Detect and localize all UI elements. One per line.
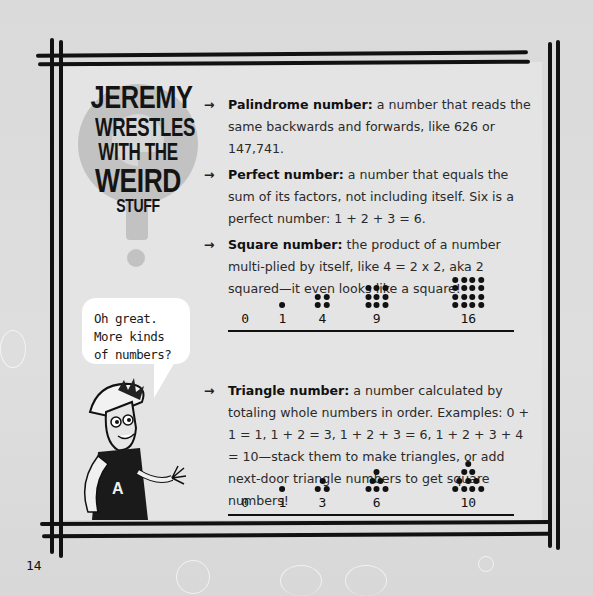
- character-illustration: A: [68, 372, 188, 520]
- dot: [374, 285, 380, 291]
- triangle-number-item: 1: [278, 486, 286, 510]
- title-line: STUFF: [93, 197, 183, 215]
- dot: [461, 285, 467, 291]
- figure-baseline: [228, 514, 514, 516]
- dot: [469, 469, 475, 475]
- figure-baseline: [228, 330, 514, 332]
- triangle-number-item: 10: [452, 461, 484, 511]
- dot: [365, 285, 371, 291]
- dot: [382, 486, 388, 492]
- doodle-circle: [176, 560, 210, 594]
- dot: [452, 294, 458, 300]
- dot: [469, 302, 475, 308]
- dot: [382, 285, 388, 291]
- dot: [469, 486, 475, 492]
- definition-term: Triangle number:: [228, 383, 349, 398]
- title-line: JEREMY: [90, 82, 185, 113]
- figure-label: 3: [315, 495, 330, 510]
- dot: [365, 486, 371, 492]
- dot: [315, 294, 321, 300]
- dot: [374, 302, 380, 308]
- dot: [315, 302, 321, 308]
- dot-group: [365, 469, 388, 492]
- dot: [469, 277, 475, 283]
- speech-line: Oh great.: [94, 310, 190, 328]
- triangle-numbers-figure: 013610: [228, 466, 514, 516]
- dot: [478, 285, 484, 291]
- dot-group: [315, 294, 330, 309]
- square-number-item: 0: [241, 308, 249, 326]
- dot: [461, 302, 467, 308]
- figure-label: 1: [278, 495, 286, 510]
- speech-line: of numbers?: [94, 346, 190, 364]
- dot: [478, 294, 484, 300]
- dot-group: [452, 277, 484, 309]
- shirt-letter: A: [112, 480, 124, 497]
- dot: [319, 478, 325, 484]
- figure-label: 0: [241, 311, 249, 326]
- dot: [461, 294, 467, 300]
- frame-right-outer: [548, 42, 552, 548]
- dot: [279, 486, 285, 492]
- sidebar-title: JEREMY WRESTLES WITH THE WEIRD STUFF: [80, 82, 196, 215]
- dot: [461, 486, 467, 492]
- definition-perfect: → Perfect number: a number that equals t…: [204, 164, 534, 230]
- dot: [324, 302, 330, 308]
- definition-palindrome: → Palindrome number: a number that reads…: [204, 94, 534, 160]
- frame-right-inner: [556, 40, 560, 550]
- dot-group: [452, 461, 484, 493]
- dot: [465, 478, 471, 484]
- dot-group: [279, 486, 285, 492]
- dot: [365, 302, 371, 308]
- dot: [452, 277, 458, 283]
- title-line: WRESTLES: [95, 115, 181, 140]
- square-number-item: 16: [452, 277, 484, 327]
- dot: [315, 486, 321, 492]
- frame-left-outer: [50, 38, 54, 554]
- dot: [478, 302, 484, 308]
- doodle-swirl: [0, 330, 26, 368]
- figure-label: 16: [452, 311, 484, 326]
- dot-group: [315, 478, 330, 493]
- dot: [452, 302, 458, 308]
- triangle-number-item: 0: [241, 492, 249, 510]
- dot: [324, 486, 330, 492]
- definition-term: Square number:: [228, 237, 343, 252]
- dot: [279, 302, 285, 308]
- triangle-number-item: 3: [315, 478, 330, 511]
- figure-label: 0: [241, 495, 249, 510]
- dot: [324, 294, 330, 300]
- dot: [474, 478, 480, 484]
- figure-label: 9: [365, 311, 388, 326]
- dot: [478, 277, 484, 283]
- dot: [374, 294, 380, 300]
- square-numbers-figure: 014916: [228, 282, 514, 332]
- arrow-icon: →: [204, 164, 215, 186]
- arrow-icon: →: [204, 94, 215, 116]
- dot: [452, 285, 458, 291]
- speech-line: More kinds: [94, 328, 190, 346]
- square-number-item: 4: [315, 294, 330, 327]
- dot: [382, 294, 388, 300]
- dot-group: [365, 285, 388, 308]
- figure-label: 6: [365, 495, 388, 510]
- frame-left-inner: [59, 40, 63, 558]
- dot: [461, 469, 467, 475]
- definition-term: Perfect number:: [228, 167, 344, 182]
- square-number-item: 9: [365, 285, 388, 326]
- title-line: WITH THE: [95, 141, 181, 164]
- dot: [469, 285, 475, 291]
- dot: [365, 294, 371, 300]
- speech-bubble: Oh great. More kinds of numbers?: [82, 298, 190, 364]
- dot: [374, 469, 380, 475]
- dot: [382, 302, 388, 308]
- dot: [378, 478, 384, 484]
- dot: [374, 486, 380, 492]
- arrow-icon: →: [204, 380, 215, 402]
- square-number-item: 1: [278, 302, 286, 326]
- definition-term: Palindrome number:: [228, 97, 373, 112]
- dot: [469, 294, 475, 300]
- dot: [478, 486, 484, 492]
- doodle-sun: [478, 556, 494, 572]
- figure-label: 10: [452, 495, 484, 510]
